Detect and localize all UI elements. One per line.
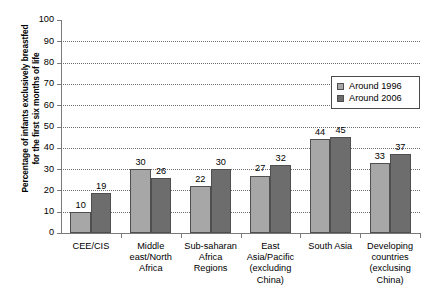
bar <box>190 186 211 233</box>
y-tick-mark <box>57 233 61 234</box>
x-tick-mark <box>420 233 421 238</box>
bar <box>91 193 112 233</box>
bar <box>130 169 151 233</box>
x-tick-mark <box>300 233 301 238</box>
y-tick-label: 70 <box>30 79 54 88</box>
bar <box>151 178 172 233</box>
gridline <box>61 169 420 170</box>
bar-value-label: 32 <box>268 154 294 163</box>
x-axis-category-label-line: Asia/Pacific <box>229 252 311 263</box>
y-tick-label: 0 <box>30 228 54 237</box>
bar <box>310 139 331 233</box>
x-tick-mark <box>121 233 122 238</box>
gridline <box>61 63 420 64</box>
y-tick-label: 30 <box>30 165 54 174</box>
bar-chart: Percentage of infants exclusively breast… <box>0 0 433 301</box>
bar <box>390 154 411 233</box>
gridline <box>61 190 420 191</box>
x-tick-mark <box>360 233 361 238</box>
bar <box>211 169 232 233</box>
gridline <box>61 41 420 42</box>
legend-swatch-icon-2006 <box>337 95 344 102</box>
legend-entry-2006: Around 2006 <box>337 93 414 104</box>
x-axis-category-label-line: Developing <box>349 241 431 252</box>
bar-value-label: 22 <box>187 175 213 184</box>
bar-value-label: 26 <box>148 167 174 176</box>
y-axis-title-line-1: Percentage of infants exclusively breast… <box>20 0 31 224</box>
y-tick-label: 20 <box>30 186 54 195</box>
bar-value-label: 10 <box>68 201 94 210</box>
legend-label-1996: Around 1996 <box>349 82 402 91</box>
y-tick-label: 90 <box>30 37 54 46</box>
gridline <box>61 148 420 149</box>
chart-legend: Around 1996 Around 2006 <box>331 76 420 109</box>
y-tick-label: 50 <box>30 122 54 131</box>
bar-value-label: 19 <box>88 182 114 191</box>
y-tick-label: 10 <box>30 207 54 216</box>
y-tick-label: 60 <box>30 101 54 110</box>
y-tick-label: 100 <box>30 15 54 24</box>
legend-entry-1996: Around 1996 <box>337 81 414 92</box>
bar <box>270 165 291 233</box>
gridline <box>61 127 420 128</box>
x-axis-category-label-line: China) <box>229 275 311 286</box>
x-axis-category-label-line: countries <box>349 252 431 263</box>
bar <box>370 163 391 233</box>
gridline <box>61 212 420 213</box>
legend-swatch-icon-1996 <box>337 83 344 90</box>
x-axis-category-label-line: China) <box>349 275 431 286</box>
x-axis-category-label: Developingcountries(exclusingChina) <box>349 241 431 286</box>
bar-value-label: 37 <box>387 143 413 152</box>
x-axis-category-label-line: (excluding <box>229 263 311 274</box>
bar <box>250 176 271 234</box>
bar-value-label: 30 <box>208 158 234 167</box>
bar-value-label: 33 <box>367 152 393 161</box>
x-tick-mark <box>241 233 242 238</box>
bar-value-label: 27 <box>247 164 273 173</box>
x-axis-category-label-line: (exclusing <box>349 263 431 274</box>
plot-area: 101930262230273244453337 <box>61 20 420 233</box>
y-tick-label: 40 <box>30 143 54 152</box>
legend-label-2006: Around 2006 <box>349 94 402 103</box>
bar <box>70 212 91 233</box>
bar-value-label: 45 <box>328 126 354 135</box>
x-tick-mark <box>181 233 182 238</box>
y-tick-label: 80 <box>30 58 54 67</box>
bar <box>330 137 351 233</box>
